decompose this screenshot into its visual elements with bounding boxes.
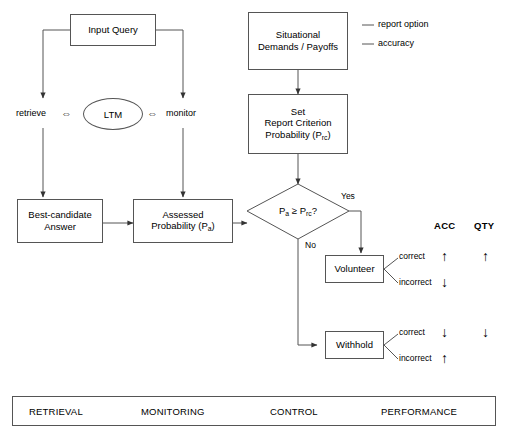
outcome-qty-volunteer-correct: ↑ (482, 249, 489, 263)
outcome-acc-volunteer-incorrect: ↓ (441, 275, 448, 289)
decision-label: Pa ≥ Prc? (258, 205, 338, 217)
bidirectional-arrow-monitor-icon: ⇔ (147, 108, 158, 119)
node-input-query[interactable]: Input Query (70, 14, 156, 46)
node-set-report-criterion-label: Set Report Criterion Probability (Prc) (261, 106, 334, 143)
branch-withhold-incorrect (384, 345, 398, 359)
edge-input-to-monitor (156, 30, 183, 98)
outcome-header-acc: ACC (434, 220, 455, 231)
annotation-report-option: report option (378, 19, 429, 29)
branch-volunteer-incorrect (384, 269, 398, 283)
edge-input-to-retrieve (43, 30, 70, 98)
legend-item-performance: PERFORMANCE (381, 406, 457, 417)
node-withhold-label: Withhold (333, 339, 376, 351)
outcome-acc-volunteer-correct: ↑ (441, 249, 448, 263)
outcome-acc-withhold-incorrect: ↑ (441, 351, 448, 365)
node-assessed-probability-label: Assessed Probability (Pa) (148, 209, 217, 234)
label-monitor: monitor (166, 108, 196, 118)
branch-label-withhold-incorrect: incorrect (399, 353, 432, 363)
legend-item-retrieval: RETRIEVAL (29, 406, 83, 417)
branch-volunteer-correct (384, 258, 398, 269)
node-assessed-probability[interactable]: Assessed Probability (Pa) (133, 199, 233, 243)
node-situational-demands-payoffs[interactable]: Situational Demands / Payoffs (248, 12, 348, 70)
annotation-accuracy: accuracy (378, 38, 414, 48)
bidirectional-arrow-retrieve-icon: ⇔ (61, 108, 72, 119)
legend-item-monitoring: MONITORING (141, 406, 205, 417)
outcome-qty-withhold-correct: ↓ (482, 325, 489, 339)
outcome-acc-withhold-correct: ↓ (441, 325, 448, 339)
label-retrieve: retrieve (16, 108, 46, 118)
decision-yes-label: Yes (341, 191, 355, 201)
flowchart-diagram: Input Query LTM retrieve ⇔ ⇔ monitor Bes… (0, 0, 509, 437)
branch-label-volunteer-incorrect: incorrect (399, 277, 432, 287)
node-best-candidate-answer[interactable]: Best-candidate Answer (17, 199, 103, 243)
node-volunteer[interactable]: Volunteer (325, 255, 384, 283)
node-set-report-criterion[interactable]: Set Report Criterion Probability (Prc) (248, 94, 348, 154)
legend-item-control: CONTROL (270, 406, 318, 417)
decision-no-label: No (305, 240, 316, 250)
node-situational-demands-payoffs-label: Situational Demands / Payoffs (255, 29, 341, 53)
branch-label-withhold-correct: correct (399, 327, 425, 337)
node-best-candidate-answer-label: Best-candidate Answer (25, 209, 94, 233)
node-ltm-label: LTM (104, 109, 122, 120)
outcome-header-qty: QTY (474, 220, 494, 231)
node-ltm[interactable]: LTM (83, 98, 143, 130)
node-input-query-label: Input Query (85, 24, 141, 36)
branch-withhold-correct (384, 334, 398, 345)
edge-yes-to-volunteer (349, 211, 361, 253)
node-volunteer-label: Volunteer (331, 263, 377, 275)
stage-legend-bar: RETRIEVAL MONITORING CONTROL PERFORMANCE (12, 396, 496, 426)
node-withhold[interactable]: Withhold (325, 331, 384, 359)
branch-label-volunteer-correct: correct (399, 251, 425, 261)
edge-no-to-withhold (298, 239, 317, 345)
